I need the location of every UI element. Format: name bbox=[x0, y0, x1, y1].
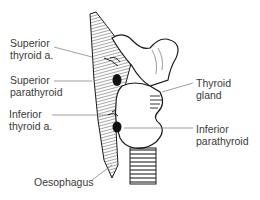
label-superior-thyroid-artery: Superior thyroid a. bbox=[10, 37, 53, 61]
thyroid-lobe bbox=[116, 83, 163, 148]
label-inferior-thyroid-artery: Inferior thyroid a. bbox=[9, 108, 52, 132]
label-inferior-parathyroid: Inferior parathyroid bbox=[196, 123, 249, 147]
anatomy-diagram: Superior thyroid a. Superior parathyroid… bbox=[0, 0, 260, 200]
superior-parathyroid-gland bbox=[113, 74, 122, 86]
inferior-parathyroid-gland bbox=[113, 122, 122, 133]
label-superior-parathyroid: Superior parathyroid bbox=[10, 74, 63, 98]
label-oesophagus: Oesophagus bbox=[34, 176, 94, 188]
label-thyroid-gland: Thyroid gland bbox=[196, 77, 231, 101]
trachea bbox=[130, 148, 156, 184]
